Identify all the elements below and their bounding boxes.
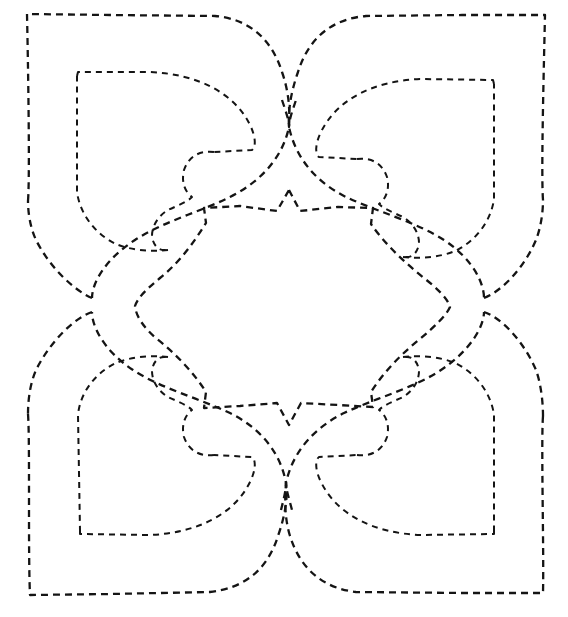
canvas-background — [0, 0, 568, 617]
pattern-artwork — [0, 0, 568, 617]
pattern-canvas: Dashed Heart Quilting Pattern Template F… — [0, 0, 568, 617]
